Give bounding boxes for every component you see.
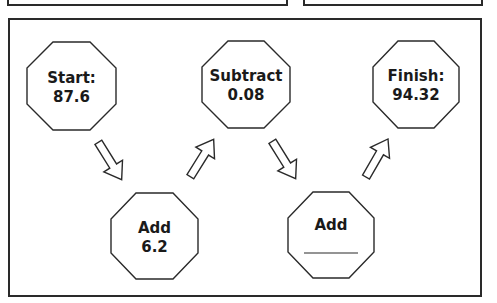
node-subtract: Subtract 0.08	[202, 41, 290, 128]
arrow-up-right-1	[181, 134, 223, 183]
node-start-label: Start:	[47, 69, 96, 87]
arrow-down-right-icon	[89, 137, 131, 186]
arrow-up-right-icon	[356, 133, 397, 182]
node-add-first-label: Add	[138, 219, 171, 237]
arrow-down-right-2	[263, 136, 305, 185]
arrow-up-right-2	[356, 133, 397, 182]
node-start-value: 87.6	[53, 88, 90, 106]
node-add-blank-label: Add	[314, 216, 347, 234]
node-add-first-value: 6.2	[141, 238, 168, 256]
arrow-up-right-icon	[181, 134, 223, 183]
node-add-first: Add 6.2	[111, 193, 198, 279]
flow-diagram: Start: 87.6 Subtract 0.08 Finish: 94.32 …	[0, 0, 497, 303]
node-finish-label: Finish:	[388, 67, 445, 85]
node-finish-value: 94.32	[392, 86, 439, 104]
arrow-down-right-icon	[263, 136, 305, 185]
node-add-blank: Add	[288, 192, 374, 278]
node-subtract-value: 0.08	[227, 86, 264, 104]
octagon-shape	[288, 192, 374, 278]
arrow-down-right-1	[89, 137, 131, 186]
node-subtract-label: Subtract	[210, 67, 283, 85]
node-start: Start: 87.6	[27, 42, 116, 130]
node-finish: Finish: 94.32	[373, 41, 459, 128]
